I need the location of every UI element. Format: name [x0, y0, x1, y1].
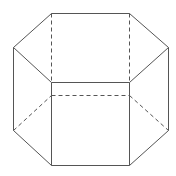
edge: [130, 48, 169, 83]
edge: [14, 14, 52, 48]
edge: [14, 131, 52, 166]
edge: [130, 14, 169, 48]
edge: [14, 48, 52, 83]
hidden-edge: [130, 96, 169, 131]
hidden-edges: [14, 14, 169, 131]
visible-edges: [14, 14, 169, 166]
edge: [130, 131, 169, 166]
hidden-edge: [14, 96, 52, 131]
hexagonal-prism-diagram: [0, 0, 176, 176]
